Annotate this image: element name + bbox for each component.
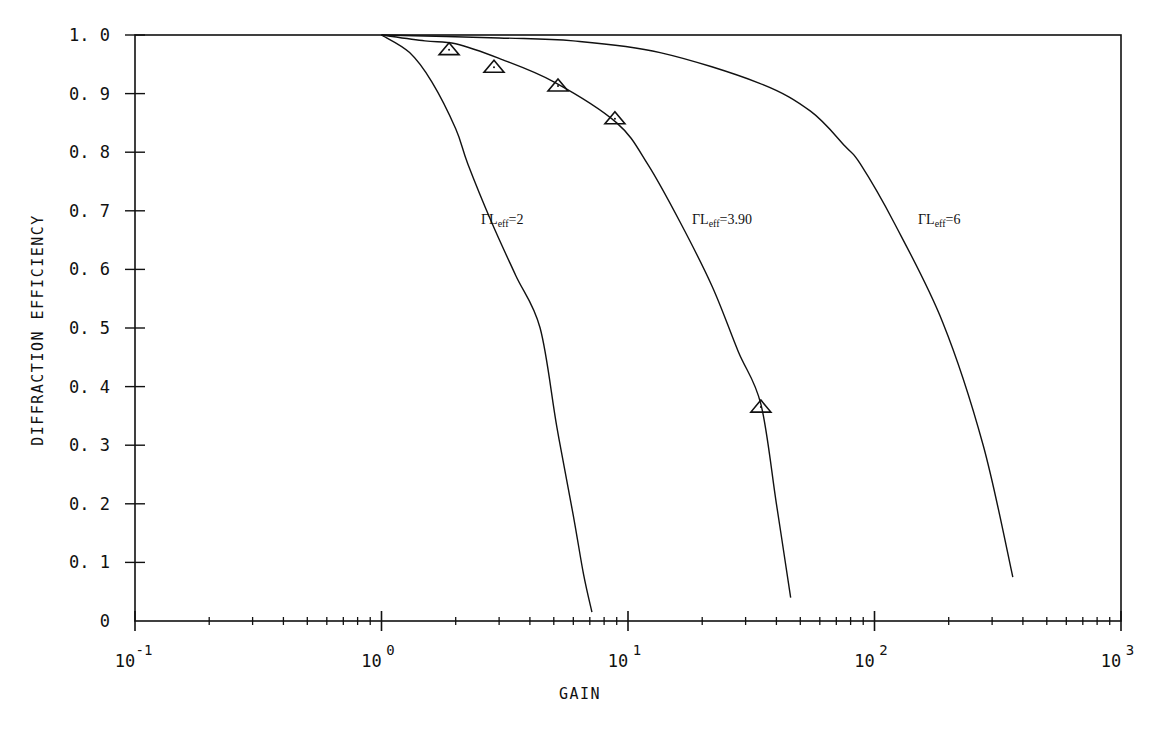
y-tick-label: 1. 0 bbox=[69, 25, 110, 45]
x-tick-exponent: 2 bbox=[879, 642, 887, 658]
y-tick-label: 0. 5 bbox=[69, 318, 110, 338]
curve-label-1: ΓLeff=2 bbox=[481, 212, 523, 229]
y-tick-label: 0. 3 bbox=[69, 435, 110, 455]
data-markers bbox=[439, 43, 771, 412]
curve-labels: ΓLeff=2ΓLeff=3.90ΓLeff=6 bbox=[481, 212, 960, 229]
marker-dot bbox=[760, 406, 762, 408]
marker-dot bbox=[448, 49, 450, 51]
x-tick-label: 10 bbox=[854, 651, 874, 671]
curve-3 bbox=[382, 35, 1013, 577]
curve-1 bbox=[382, 35, 592, 612]
curve-2 bbox=[382, 35, 791, 598]
x-tick-exponent: 0 bbox=[386, 642, 394, 658]
y-tick-label: 0. 2 bbox=[69, 494, 110, 514]
curve-label-2: ΓLeff=3.90 bbox=[692, 212, 752, 229]
y-tick-label: 0 bbox=[100, 611, 110, 631]
chart: 00. 10. 20. 30. 40. 50. 60. 70. 80. 91. … bbox=[0, 0, 1164, 735]
x-tick-exponent: -1 bbox=[136, 642, 153, 658]
x-tick-label: 10 bbox=[115, 651, 135, 671]
marker-dot bbox=[493, 66, 495, 68]
x-tick-exponent: 1 bbox=[633, 642, 641, 658]
y-tick-label: 0. 4 bbox=[69, 377, 110, 397]
y-axis-title: DIFFRACTION EFFICIENCY bbox=[29, 214, 47, 446]
curve-label-3: ΓLeff=6 bbox=[918, 212, 960, 229]
y-tick-label: 0. 8 bbox=[69, 142, 110, 162]
y-tick-label: 0. 9 bbox=[69, 84, 110, 104]
plot-frame bbox=[135, 35, 1121, 621]
curves bbox=[382, 35, 1013, 612]
y-tick-label: 0. 7 bbox=[69, 201, 110, 221]
x-tick-label: 10 bbox=[1101, 651, 1121, 671]
marker-dot bbox=[557, 85, 559, 87]
y-tick-label: 0. 1 bbox=[69, 552, 110, 572]
y-tick-label: 0. 6 bbox=[69, 259, 110, 279]
plot-border bbox=[135, 35, 1121, 621]
y-axis: 00. 10. 20. 30. 40. 50. 60. 70. 80. 91. … bbox=[69, 25, 145, 631]
x-axis: 10-1100101102103 bbox=[115, 611, 1134, 671]
marker-dot bbox=[614, 118, 616, 120]
x-tick-exponent: 3 bbox=[1126, 642, 1134, 658]
x-tick-label: 10 bbox=[361, 651, 381, 671]
x-axis-title: GAIN bbox=[559, 685, 601, 703]
x-tick-label: 10 bbox=[608, 651, 628, 671]
